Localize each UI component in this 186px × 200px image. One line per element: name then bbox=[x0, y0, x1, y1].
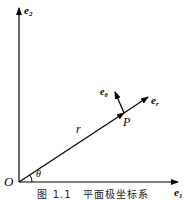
e2-label: e2 bbox=[24, 4, 33, 18]
r-label: r bbox=[76, 122, 81, 136]
er-label: er bbox=[151, 94, 159, 108]
etheta-label: eθ bbox=[100, 86, 108, 98]
theta-label: θ bbox=[36, 168, 41, 179]
theta-arc bbox=[30, 175, 32, 182]
figure-caption: 图 1.1 平面极坐标系 bbox=[0, 186, 186, 200]
P-label: P bbox=[122, 115, 131, 129]
r-vector bbox=[19, 113, 124, 182]
polar-coordinate-diagram: e2 e1 er eθ r P O θ bbox=[0, 0, 186, 200]
er-vector bbox=[124, 97, 148, 113]
etheta-vector bbox=[115, 92, 124, 113]
